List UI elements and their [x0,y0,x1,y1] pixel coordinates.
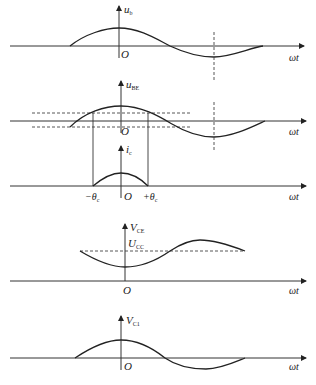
y-label: ub [124,3,133,16]
ucc-label: UCC [128,237,144,250]
time-axis-label: ωt [289,52,299,63]
panel-vc1: VC1 O ωt [10,314,306,372]
time-axis-label: ωt [289,191,299,202]
panel-vce: VCE UCC O ωt [10,221,306,296]
ub-waveform [70,28,263,57]
origin-label: O [123,284,131,296]
vce-waveform [80,240,245,267]
y-label: uBE [126,78,140,91]
panel-ub: ub O ωt [10,3,304,80]
waveform-diagram: ub O ωt uBE O ωt ic −θc O +θc ωt VCE UCC… [0,0,316,385]
y-label: ic [126,143,132,156]
origin-label: O [121,48,129,60]
time-axis-label: ωt [289,285,299,296]
origin-label: O [124,190,132,202]
time-axis-label: ωt [289,361,299,372]
y-label: VCE [130,221,145,234]
origin-label: O [121,125,129,137]
pos-theta-label: +θc [143,191,158,203]
panel-ube: uBE O ωt [10,78,306,186]
y-label: VC1 [126,314,140,327]
panel-ic: ic −θc O +θc ωt [10,143,306,203]
neg-theta-label: −θc [85,191,100,203]
origin-label: O [124,360,132,372]
time-axis-label: ωt [289,126,299,137]
vc1-waveform [75,340,245,369]
